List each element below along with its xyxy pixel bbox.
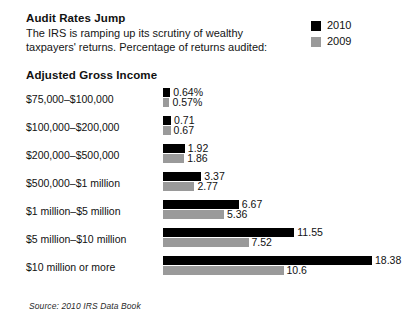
bar-group: 18.3810.6 (163, 256, 401, 276)
legend-item[interactable]: 2009 (311, 36, 351, 47)
category-label: $5 million–$10 million (26, 233, 126, 245)
bar-group: 0.64%0.57% (163, 88, 203, 108)
chart-legend: 20102009 (311, 20, 351, 47)
bar-value-label: 10.6 (287, 265, 307, 276)
bar-value-label: 18.38 (375, 255, 401, 266)
bar-2009[interactable] (163, 238, 249, 247)
bar-2009[interactable] (163, 266, 284, 275)
bar-2010[interactable] (163, 144, 185, 153)
bar-line: 0.67 (163, 126, 195, 135)
bar-line: 6.67 (163, 200, 262, 209)
chart-title: Audit Rates Jump (26, 11, 296, 25)
legend-swatch-icon (311, 21, 321, 31)
bar-group: 11.557.52 (163, 228, 323, 248)
bar-value-label: 11.55 (297, 227, 323, 238)
chart-row: $200,000–$500,0001.921.86 (0, 143, 420, 171)
legend-item[interactable]: 2010 (311, 20, 351, 31)
legend-label: 2009 (327, 36, 351, 47)
category-label: $100,000–$200,000 (26, 121, 119, 133)
bar-2009[interactable] (163, 98, 169, 107)
chart-row: $1 million–$5 million6.675.36 (0, 199, 420, 227)
chart-subtitle-line-2: taxpayers' returns. Percentage of return… (26, 41, 296, 55)
category-label: $500,000–$1 million (26, 177, 120, 189)
bar-line: 1.86 (163, 154, 208, 163)
chart-subtitle: The IRS is ramping up its scrutiny of we… (26, 27, 296, 54)
bar-2010[interactable] (163, 228, 294, 237)
chart-card: Audit Rates Jump The IRS is ramping up i… (0, 0, 420, 323)
chart-row: $75,000–$100,0000.64%0.57% (0, 87, 420, 115)
chart-subtitle-line-1: The IRS is ramping up its scrutiny of we… (26, 27, 296, 41)
bar-group: 1.921.86 (163, 144, 208, 164)
bar-2010[interactable] (163, 116, 171, 125)
bar-2009[interactable] (163, 182, 194, 191)
bar-group: 6.675.36 (163, 200, 262, 220)
bar-value-label: 2.77 (197, 181, 217, 192)
category-label: $75,000–$100,000 (26, 93, 114, 105)
chart-row: $500,000–$1 million3.372.77 (0, 171, 420, 199)
bar-2010[interactable] (163, 256, 372, 265)
bar-group: 0.710.67 (163, 116, 195, 136)
bar-line: 18.38 (163, 256, 401, 265)
bar-2009[interactable] (163, 154, 184, 163)
bar-value-label: 7.52 (252, 237, 272, 248)
category-label: $10 million or more (26, 261, 115, 273)
chart-source: Source: 2010 IRS Data Book (29, 301, 141, 311)
category-label: $1 million–$5 million (26, 205, 121, 217)
bar-line: 7.52 (163, 238, 323, 247)
legend-swatch-icon (311, 37, 321, 47)
bar-value-label: 0.67 (174, 125, 194, 136)
legend-label: 2010 (327, 20, 351, 31)
chart-row: $5 million–$10 million11.557.52 (0, 227, 420, 255)
category-axis-header: Adjusted Gross Income (26, 69, 157, 81)
bar-line: 10.6 (163, 266, 401, 275)
bar-line: 5.36 (163, 210, 262, 219)
bar-group: 3.372.77 (163, 172, 225, 192)
bar-2010[interactable] (163, 172, 201, 181)
bar-line: 2.77 (163, 182, 225, 191)
bar-value-label: 0.57% (172, 97, 202, 108)
bar-line: 0.57% (163, 98, 203, 107)
chart-plot-area: $75,000–$100,0000.64%0.57%$100,000–$200,… (0, 87, 420, 283)
chart-header: Audit Rates Jump The IRS is ramping up i… (26, 11, 296, 54)
bar-value-label: 1.86 (187, 153, 207, 164)
category-label: $200,000–$500,000 (26, 149, 119, 161)
bar-2009[interactable] (163, 126, 171, 135)
bar-2010[interactable] (163, 88, 170, 97)
bar-value-label: 5.36 (227, 209, 247, 220)
chart-row: $100,000–$200,0000.710.67 (0, 115, 420, 143)
bar-2009[interactable] (163, 210, 224, 219)
chart-row: $10 million or more18.3810.6 (0, 255, 420, 283)
bar-line: 11.55 (163, 228, 323, 237)
